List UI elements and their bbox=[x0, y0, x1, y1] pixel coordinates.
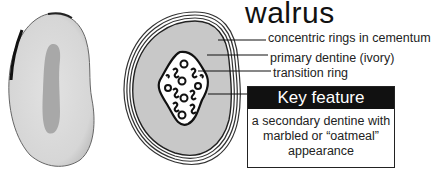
label-transition-ring: transition ring bbox=[273, 66, 348, 80]
key-feature-heading: Key feature bbox=[248, 87, 394, 109]
label-cementum-rings: concentric rings in cementum bbox=[268, 31, 431, 45]
key-feature-box: Key feature a secondary dentine with mar… bbox=[247, 86, 395, 168]
key-feature-description: a secondary dentine with marbled or “oat… bbox=[248, 109, 394, 159]
diagram-title: walrus bbox=[245, 0, 335, 30]
key-feature-line: marbled or “oatmeal” bbox=[248, 129, 394, 144]
key-feature-line: a secondary dentine with bbox=[248, 114, 394, 129]
key-feature-line: appearance bbox=[248, 144, 394, 159]
label-primary-dentine: primary dentine (ivory) bbox=[270, 51, 394, 65]
walrus-tusk-cross-section-photo bbox=[0, 0, 120, 176]
